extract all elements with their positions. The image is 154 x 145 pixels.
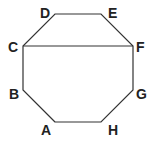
vertex-label-h: H bbox=[108, 122, 118, 138]
vertex-label-e: E bbox=[108, 5, 117, 21]
vertex-label-a: A bbox=[41, 122, 51, 138]
vertex-label-g: G bbox=[136, 86, 147, 102]
octagon-shape bbox=[23, 14, 133, 122]
vertex-label-d: D bbox=[40, 5, 50, 21]
vertex-label-c: C bbox=[8, 39, 18, 55]
vertex-labels: ABCDEFGH bbox=[8, 5, 147, 138]
vertex-label-b: B bbox=[9, 86, 19, 102]
octagon-diagram: ABCDEFGH bbox=[0, 0, 154, 145]
vertex-label-f: F bbox=[136, 39, 145, 55]
